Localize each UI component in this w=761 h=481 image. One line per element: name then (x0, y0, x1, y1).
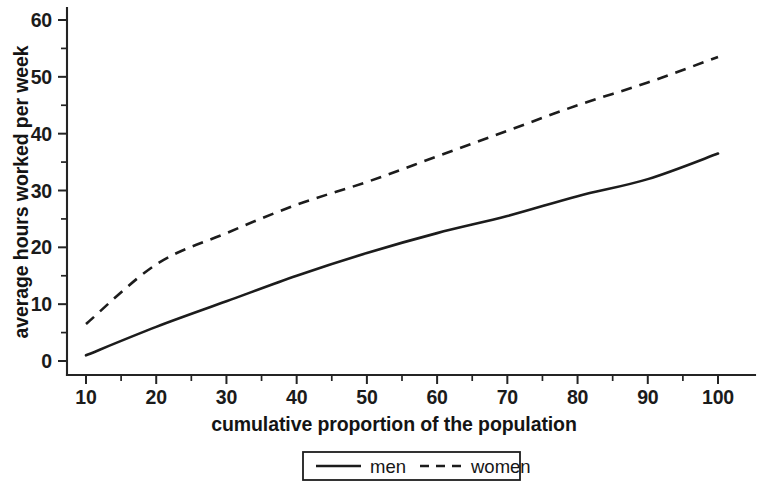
x-tick-label-50: 50 (356, 386, 378, 408)
x-tick-label-10: 10 (75, 386, 97, 408)
x-tick-label-30: 30 (216, 386, 238, 408)
line-chart: 0102030405060 102030405060708090100 aver… (0, 0, 761, 481)
y-tick-label-20: 20 (31, 236, 53, 258)
x-tick-label-60: 60 (426, 386, 448, 408)
legend-label-women: women (470, 456, 531, 477)
x-axis-title: cumulative proportion of the population (211, 413, 577, 435)
y-tick-label-60: 60 (31, 9, 53, 31)
x-tick-label-100: 100 (702, 386, 734, 408)
x-tick-label-90: 90 (637, 386, 659, 408)
x-tick-label-70: 70 (497, 386, 519, 408)
y-tick-label-10: 10 (31, 293, 53, 315)
y-tick-label-0: 0 (41, 350, 52, 372)
y-axis-title: average hours worked per week (10, 45, 32, 338)
chart-background (0, 0, 761, 481)
y-tick-label-50: 50 (31, 66, 53, 88)
y-tick-label-40: 40 (31, 123, 53, 145)
y-tick-label-30: 30 (31, 180, 53, 202)
legend-label-men: men (370, 456, 406, 477)
x-tick-label-20: 20 (146, 386, 168, 408)
x-tick-label-80: 80 (567, 386, 589, 408)
legend: men women (303, 452, 531, 480)
x-tick-label-40: 40 (286, 386, 308, 408)
